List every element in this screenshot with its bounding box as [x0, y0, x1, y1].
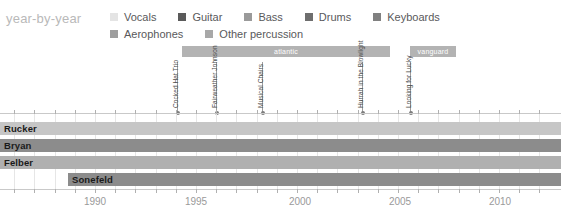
- axis-tick-bottom: [236, 189, 237, 193]
- annotation-label: Hurrah in the Blowlight: [357, 40, 364, 108]
- axis-tick-bottom: [196, 189, 197, 193]
- axis-tick-top: [34, 110, 35, 114]
- axis-tick-bottom: [115, 189, 116, 193]
- axis-tick-top: [499, 110, 500, 114]
- legend-swatch-icon: [244, 13, 252, 21]
- legend-item-other-percussion[interactable]: Other percussion: [205, 28, 303, 40]
- axis-tick-bottom: [34, 189, 35, 193]
- year-by-year-chart: year-by-year VocalsGuitarBassDrumsKeyboa…: [0, 0, 561, 213]
- x-axis-tick-label: 2010: [489, 196, 511, 207]
- axis-tick-bottom: [438, 189, 439, 193]
- member-name-label: Rucker: [0, 122, 37, 135]
- axis-tick-top: [438, 110, 439, 114]
- legend-swatch-icon: [178, 13, 186, 21]
- axis-tick-bottom: [378, 189, 379, 193]
- legend-item-label: Bass: [258, 11, 282, 23]
- legend-item-label: Aerophones: [124, 28, 183, 40]
- member-timeline-bar-rucker[interactable]: Rucker: [0, 122, 561, 135]
- member-name-label: Sonefeld: [68, 173, 113, 186]
- axis-tick-top: [75, 110, 76, 114]
- axis-tick-bottom: [14, 189, 15, 193]
- axis-tick-bottom: [519, 189, 520, 193]
- axis-tick-bottom: [358, 189, 359, 193]
- page-title: year-by-year: [6, 11, 81, 26]
- axis-tick-top: [236, 110, 237, 114]
- axis-tick-top: [277, 110, 278, 114]
- axis-tick-bottom: [337, 189, 338, 193]
- legend-item-label: Vocals: [124, 11, 156, 23]
- legend-row: AerophonesOther percussion: [110, 26, 555, 42]
- axis-tick-bottom: [176, 189, 177, 193]
- axis-tick-top: [135, 110, 136, 114]
- axis-tick-top: [156, 110, 157, 114]
- legend-item-label: Other percussion: [219, 28, 303, 40]
- member-name-label: Bryan: [0, 139, 31, 152]
- axis-tick-bottom: [297, 189, 298, 193]
- legend-item-aerophones[interactable]: Aerophones: [110, 28, 183, 40]
- legend-swatch-icon: [110, 13, 118, 21]
- axis-tick-top: [479, 110, 480, 114]
- record-label-bar-text: vanguard: [410, 46, 456, 57]
- legend-swatch-icon: [305, 13, 313, 21]
- axis-tick-top: [196, 110, 197, 114]
- x-axis-tick-label: 1990: [84, 196, 106, 207]
- axis-tick-top: [337, 110, 338, 114]
- axis-tick-top: [358, 110, 359, 114]
- legend-item-vocals[interactable]: Vocals: [110, 11, 156, 23]
- x-axis-tick-label: 2005: [389, 196, 411, 207]
- axis-tick-top: [115, 110, 116, 114]
- axis-tick-top: [95, 110, 96, 114]
- annotation-label: Fairweather Johnson: [211, 45, 218, 108]
- axis-line-top: [0, 113, 561, 114]
- axis-tick-top: [14, 110, 15, 114]
- legend-item-label: Guitar: [192, 11, 222, 23]
- axis-tick-bottom: [156, 189, 157, 193]
- axis-tick-top: [418, 110, 419, 114]
- legend-row: VocalsGuitarBassDrumsKeyboards: [110, 9, 555, 25]
- axis-tick-top: [216, 110, 217, 114]
- annotation-label: Musical Chairs: [257, 64, 264, 108]
- axis-tick-bottom: [479, 189, 480, 193]
- axis-tick-top: [459, 110, 460, 114]
- x-axis-tick-label: 2000: [289, 196, 311, 207]
- axis-tick-top: [398, 110, 399, 114]
- member-name-label: Felber: [0, 156, 33, 169]
- annotation-label: Cocked Hat Trio: [172, 60, 179, 108]
- member-timeline-bar-sonefeld[interactable]: Sonefeld: [68, 173, 561, 186]
- record-label-bar-vanguard[interactable]: vanguard: [410, 46, 456, 57]
- legend-item-guitar[interactable]: Guitar: [178, 11, 222, 23]
- axis-tick-bottom: [539, 189, 540, 193]
- axis-tick-bottom: [398, 189, 399, 193]
- axis-tick-top: [378, 110, 379, 114]
- legend-swatch-icon: [373, 13, 381, 21]
- annotation-label: Looking for Lucky: [405, 55, 412, 108]
- axis-tick-top: [297, 110, 298, 114]
- member-timeline-bar-bryan[interactable]: Bryan: [0, 139, 561, 152]
- axis-line-bottom: [0, 189, 561, 190]
- axis-tick-top: [539, 110, 540, 114]
- axis-tick-top: [176, 110, 177, 114]
- legend-swatch-icon: [205, 30, 213, 38]
- legend-item-bass[interactable]: Bass: [244, 11, 282, 23]
- legend-item-drums[interactable]: Drums: [305, 11, 351, 23]
- legend: VocalsGuitarBassDrumsKeyboardsAerophones…: [110, 9, 555, 43]
- axis-tick-bottom: [135, 189, 136, 193]
- timeline-plot-area: RuckerBryanFelberSonefeld: [0, 110, 561, 192]
- x-axis-tick-label: 1995: [185, 196, 207, 207]
- legend-item-label: Drums: [319, 11, 351, 23]
- axis-tick-top: [317, 110, 318, 114]
- member-timeline-bar-felber[interactable]: Felber: [0, 156, 561, 169]
- axis-tick-top: [257, 110, 258, 114]
- axis-tick-bottom: [418, 189, 419, 193]
- legend-item-keyboards[interactable]: Keyboards: [373, 11, 440, 23]
- axis-tick-bottom: [95, 189, 96, 193]
- axis-tick-bottom: [55, 189, 56, 193]
- axis-tick-bottom: [257, 189, 258, 193]
- legend-swatch-icon: [110, 30, 118, 38]
- axis-tick-bottom: [277, 189, 278, 193]
- axis-tick-top: [55, 110, 56, 114]
- axis-tick-top: [519, 110, 520, 114]
- axis-tick-bottom: [499, 189, 500, 193]
- axis-tick-bottom: [75, 189, 76, 193]
- axis-tick-bottom: [317, 189, 318, 193]
